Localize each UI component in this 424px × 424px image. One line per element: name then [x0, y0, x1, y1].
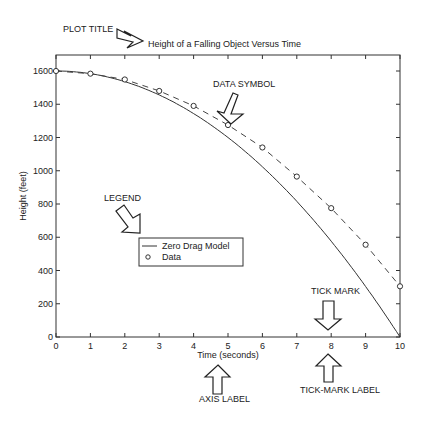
- arrow-icon-axis-label: [205, 365, 230, 394]
- y-tick-label: 0: [48, 332, 53, 342]
- legend-circle-icon: [146, 255, 150, 259]
- data-point-marker: [88, 71, 93, 76]
- arrow-icon-tick-mark: [315, 301, 341, 330]
- x-axis-label: Time (seconds): [197, 350, 259, 360]
- data-point-marker: [260, 145, 265, 150]
- data-point-marker: [294, 174, 299, 179]
- annotation-legend: LEGEND: [104, 193, 142, 203]
- annotation-tick-mark: TICK MARK: [311, 286, 360, 296]
- arrow-icon-tick-mark-label: [316, 354, 341, 382]
- x-tick-label: 4: [191, 341, 196, 351]
- x-tick-label: 7: [294, 341, 299, 351]
- arrow-icon-title: [117, 29, 143, 48]
- data-point-marker: [397, 284, 402, 289]
- data-point-marker: [157, 88, 162, 93]
- annotation-plot-title: PLOT TITLE: [63, 24, 113, 34]
- y-axis-label: Height (feet): [18, 171, 28, 221]
- annotation-data-symbol: DATA SYMBOL: [213, 79, 275, 89]
- y-tick-label: 200: [38, 299, 53, 309]
- legend-label-model: Zero Drag Model: [162, 241, 230, 251]
- x-tick-label: 1: [88, 341, 93, 351]
- data-point-marker: [122, 77, 127, 82]
- x-tick-label: 3: [157, 341, 162, 351]
- data-point-marker: [363, 242, 368, 247]
- y-tick-label: 400: [38, 266, 53, 276]
- x-tick-label: 0: [53, 341, 58, 351]
- x-tick-label: 6: [260, 341, 265, 351]
- arrow-icon-legend: [116, 205, 140, 233]
- legend-label-data: Data: [162, 252, 181, 262]
- data-point-marker: [53, 68, 58, 73]
- annotation-axis-label: AXIS LABEL: [199, 394, 250, 404]
- x-tick-label: 9: [363, 341, 368, 351]
- data-point-marker: [191, 103, 196, 108]
- plot-title: Height of a Falling Object Versus Time: [148, 39, 301, 49]
- chart: 0123456789100200400600800100012001400160…: [0, 0, 424, 424]
- y-tick-label: 1200: [33, 133, 53, 143]
- y-tick-label: 600: [38, 232, 53, 242]
- x-tick-label: 10: [395, 341, 405, 351]
- arrow-icon-data-symbol: [217, 93, 243, 124]
- y-tick-label: 1600: [33, 66, 53, 76]
- annotation-tick-mark-label: TICK-MARK LABEL: [300, 385, 380, 395]
- y-tick-label: 1400: [33, 99, 53, 109]
- y-tick-label: 800: [38, 199, 53, 209]
- x-tick-label: 8: [329, 341, 334, 351]
- y-tick-label: 1000: [33, 166, 53, 176]
- data-point-marker: [329, 206, 334, 211]
- x-tick-label: 2: [122, 341, 127, 351]
